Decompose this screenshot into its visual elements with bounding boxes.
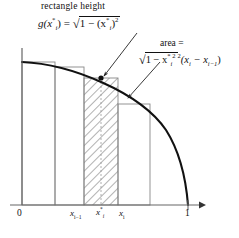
- tick-label-x-star: x*i: [96, 207, 104, 219]
- height-formula-lhs-star: *: [52, 16, 55, 23]
- tick-label-x-prev-sub: i−1: [74, 214, 82, 220]
- area-radicand-text: 1 − x: [146, 54, 168, 65]
- area-formula: √1 − x*i22(xi − xi−1): [139, 52, 221, 67]
- rectangle-2: [55, 67, 84, 205]
- height-radicand-exp: 2: [115, 16, 118, 23]
- rectangle-1: [22, 62, 55, 205]
- x-axis-origin-label: 0: [17, 209, 22, 219]
- area-radicand-star: *: [167, 52, 170, 59]
- height-radicand-star: *: [106, 16, 109, 23]
- area-formula-sqrt: √1 − x*i2: [139, 52, 178, 67]
- riemann-sum-figure: [0, 0, 239, 238]
- tick-label-x-cur-sub: i: [123, 214, 125, 220]
- height-formula-lhs: g(x: [38, 17, 52, 29]
- tick-label-x-star-sup: *: [100, 206, 103, 212]
- height-formula-sqrt: √1 − (x*i)2: [73, 16, 121, 32]
- area-formula-radicand: 1 − x*i2: [145, 52, 178, 67]
- sample-point-dot: [98, 75, 103, 80]
- area-factor-open: (x: [181, 54, 189, 65]
- tick-label-x-prev: xi−1: [70, 209, 82, 220]
- x-axis-end-label: 1: [185, 209, 190, 219]
- leader-line-area: [128, 62, 160, 98]
- radical-sign-icon-2: √: [139, 56, 146, 66]
- rectangle-height-label: rectangle height: [41, 2, 105, 12]
- area-radicand-exp: 2: [172, 52, 175, 59]
- height-radicand-text: 1 − (x: [80, 17, 106, 29]
- highlighted-rectangle: [84, 78, 118, 205]
- rectangle-4: [118, 104, 150, 205]
- area-radicand-sub: i: [171, 60, 173, 67]
- tick-label-x-star-sub: i: [103, 213, 105, 219]
- height-formula-radicand: 1 − (x*i)2: [79, 16, 121, 32]
- area-factor-minus: − x: [191, 54, 208, 65]
- radical-sign-icon: √: [73, 19, 80, 29]
- area-label: area =: [160, 39, 184, 49]
- area-factor-sub2: i−1: [208, 60, 217, 67]
- height-formula-equals: ) =: [57, 17, 70, 29]
- area-factor-close: ): [217, 54, 221, 65]
- leader-line-height: [104, 33, 137, 76]
- height-formula: g(x*i) = √1 − (x*i)2: [38, 16, 120, 32]
- tick-label-x-cur: xi: [119, 209, 125, 220]
